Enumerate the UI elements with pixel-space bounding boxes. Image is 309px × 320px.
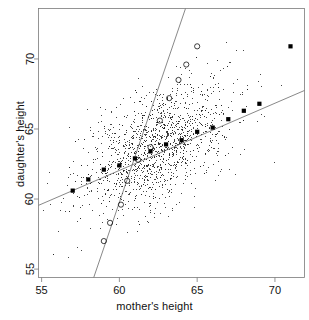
y-axis-title: daughter's height [14,69,26,219]
x-tick-label: 70 [269,284,281,296]
x-tick-label: 65 [191,284,203,296]
y-tick-label: 70 [24,53,36,65]
x-tick-label: 55 [35,284,47,296]
regression-lines [39,9,305,278]
data-point-cloud [43,42,282,258]
x-tick-label: 60 [113,284,125,296]
shallow-regression-line [39,90,305,205]
filled-square-markers [71,44,293,193]
steep-regression-line [94,9,186,278]
plot-canvas: 5560657055606570 [0,0,309,320]
y-tick-label: 55 [24,263,36,275]
scatter-plot-figure: 5560657055606570 mother's height daughte… [0,0,309,320]
x-axis-title: mother's height [0,300,309,312]
